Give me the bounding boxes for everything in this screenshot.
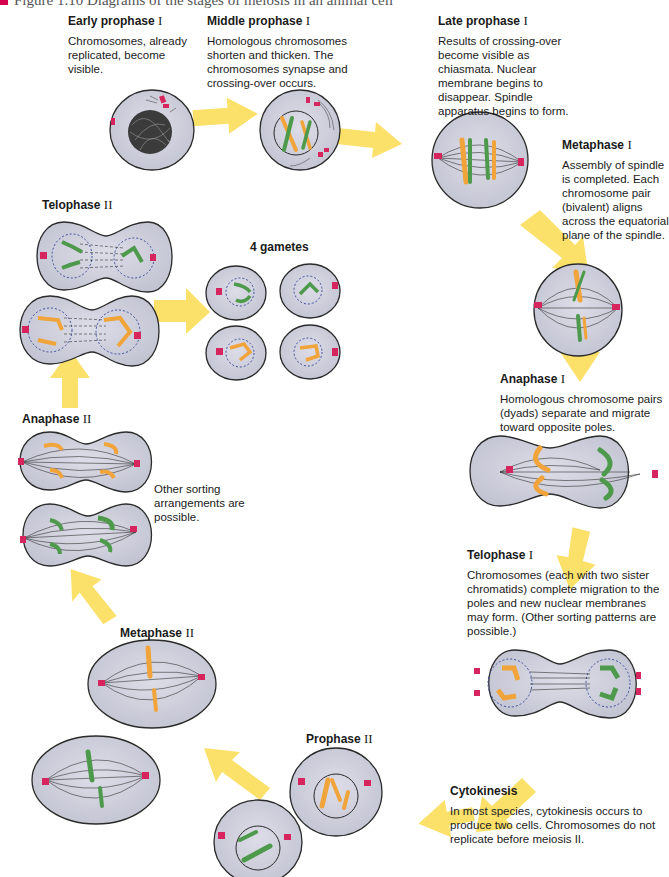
arrow-up-left-icon: [64, 569, 122, 626]
arrow-right-icon: [154, 288, 210, 334]
label-metaphase-2: Metaphase II: [120, 626, 230, 646]
label-anaphase-1: Anaphase I Homologous chromosome pairs (…: [500, 372, 669, 434]
label-gametes: 4 gametes: [250, 240, 340, 260]
gamete-green-2: [280, 264, 340, 318]
cell-late-prophase-1: [432, 112, 528, 208]
label-cytokinesis: Cytokinesis In most species, cytokinesis…: [450, 784, 660, 846]
gamete-green-1: [206, 266, 266, 320]
cell-prophase-2-green: [214, 800, 302, 877]
cell-middle-prophase-1: [260, 90, 340, 170]
label-metaphase-1: Metaphase I Assembly of spindle is compl…: [562, 138, 669, 242]
cell-metaphase-2-green: [32, 736, 160, 824]
cell-prophase-2-orange: [290, 748, 382, 836]
label-telophase-2: Telophase II: [42, 198, 152, 218]
label-prophase-2: Prophase II: [306, 732, 406, 752]
arrow-right-icon: [336, 122, 402, 158]
gamete-orange-2: [280, 325, 340, 379]
label-anaphase-2-note: Other sorting arrangements are possible.: [154, 482, 246, 524]
arrow-right-icon: [192, 96, 259, 136]
cell-anaphase-2-orange: [18, 432, 152, 492]
gamete-orange-1: [206, 326, 266, 380]
cell-anaphase-2-green: [20, 504, 152, 566]
label-middle-prophase-1: Middle prophase I Homologous chromosomes…: [207, 14, 352, 90]
cell-telophase-2-green: [37, 222, 172, 292]
label-early-prophase-1: Early prophase I Chromosomes, already re…: [68, 14, 188, 76]
cell-metaphase-2-orange: [88, 640, 216, 728]
cell-telophase-2-orange: [20, 296, 159, 366]
cell-metaphase-1: [534, 264, 622, 356]
label-anaphase-2: Anaphase II: [22, 412, 132, 432]
arrow-up-left-icon: [204, 748, 270, 800]
cell-early-prophase-1: [110, 90, 194, 170]
cell-telophase-1: [474, 650, 641, 718]
label-telophase-1: Telophase I Chromosomes (each with two s…: [467, 548, 669, 638]
cell-anaphase-1: [470, 436, 658, 508]
label-late-prophase-1: Late prophase I Results of crossing-over…: [438, 14, 586, 118]
